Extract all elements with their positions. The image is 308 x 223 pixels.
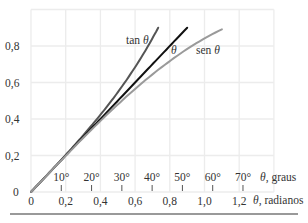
y-axis-ticks: 00,20,40,60,8 <box>5 40 20 198</box>
degree-tick-label: 10° <box>53 171 70 183</box>
x-tick-label: 0 <box>28 195 34 207</box>
degree-tick-label: 60° <box>205 171 222 183</box>
y-tick-label: 0,4 <box>5 113 20 126</box>
x-tick-label: 0,8 <box>163 195 178 208</box>
degree-tick-label: 20° <box>84 171 101 183</box>
x-axis-label-radians: θ, radianos <box>253 194 304 207</box>
chart: 00,20,40,60,8 00,20,40,60,81,01,2 10°20°… <box>0 0 308 223</box>
x-axis-ticks-degrees: 10°20°30°40°50°60°70° <box>53 171 251 191</box>
x-tick-label: 0,4 <box>93 195 108 208</box>
y-tick-label: 0,8 <box>5 40 20 53</box>
degree-tick-label: 30° <box>114 171 131 183</box>
x-tick-label: 1,2 <box>232 195 247 208</box>
series-line <box>31 29 222 192</box>
series <box>31 28 222 192</box>
annotation-theta: θ <box>171 44 177 56</box>
x-axis-label-degrees: θ, graus <box>260 171 297 184</box>
degree-tick-label: 50° <box>174 171 191 183</box>
x-tick-label: 0,2 <box>59 195 74 208</box>
annotation-sen: sen θ <box>196 44 220 56</box>
degree-tick-label: 40° <box>144 171 161 183</box>
x-tick-label: 1,0 <box>197 195 212 208</box>
annotation-tan: tan θ <box>126 34 149 46</box>
y-tick-label: 0,6 <box>5 77 20 90</box>
x-axis-ticks-radians: 00,20,40,60,81,01,2 <box>28 195 247 208</box>
caption-rule <box>10 213 298 215</box>
series-line <box>31 28 158 192</box>
x-tick-label: 0,6 <box>128 195 143 208</box>
y-tick-label: 0 <box>13 186 19 198</box>
degree-tick-label: 70° <box>235 171 252 183</box>
y-tick-label: 0,2 <box>5 150 20 163</box>
